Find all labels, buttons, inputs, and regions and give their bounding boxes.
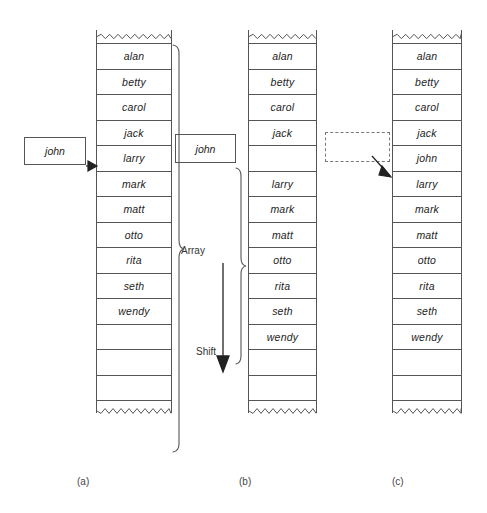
array-cell: rita: [97, 248, 171, 274]
array-cell: seth: [97, 274, 171, 300]
array-cell: wendy: [97, 299, 171, 325]
array-cell: carol: [249, 95, 316, 121]
array-cell: jack: [249, 121, 316, 147]
array-cell-label: otto: [273, 255, 291, 266]
array-cell: alan: [393, 44, 461, 70]
array-cell-label: alan: [124, 51, 145, 62]
array-cell: [97, 325, 171, 351]
array-cell-label: mark: [122, 179, 146, 190]
array-cell-label: matt: [416, 230, 437, 241]
array-cell: betty: [97, 70, 171, 96]
array-cell-label: wendy: [411, 332, 442, 343]
array-cell-label: mark: [270, 204, 294, 215]
array-cell-label: larry: [123, 153, 144, 164]
array-cell: larry: [393, 172, 461, 198]
array-cell: mark: [97, 172, 171, 198]
array-cell-label: betty: [271, 77, 295, 88]
array-cell: [249, 350, 316, 376]
array-cell: [393, 350, 461, 376]
array-insertion-figure: john alanbettycaroljacklarrymarkmattotto…: [0, 0, 487, 513]
array-cell-label: carol: [415, 102, 439, 113]
input-value-box-b: john: [175, 134, 236, 163]
array-cell: rita: [249, 274, 316, 300]
array-cell-label: otto: [125, 230, 143, 241]
caption-a: (a): [77, 476, 89, 487]
shift-arrow: [217, 263, 229, 372]
shift-brace: [236, 168, 246, 364]
array-cell: john: [393, 146, 461, 172]
array-cell-label: seth: [417, 306, 438, 317]
array-cell: jack: [393, 121, 461, 147]
array-cell: wendy: [249, 325, 316, 351]
array-cell: [393, 376, 461, 402]
array-cell-label: carol: [122, 102, 146, 113]
array-cell-label: matt: [123, 204, 144, 215]
array-cell-label: carol: [271, 102, 295, 113]
array-cell: mark: [249, 197, 316, 223]
array-cell: rita: [393, 274, 461, 300]
array-cell: seth: [249, 299, 316, 325]
array-brace-label: Array: [181, 245, 205, 256]
array-cell-label: wendy: [118, 306, 149, 317]
array-cell: otto: [249, 248, 316, 274]
array-cell-label: alan: [272, 51, 293, 62]
array-cell: wendy: [393, 325, 461, 351]
array-cell-label: mark: [415, 204, 439, 215]
array-cell-label: seth: [272, 306, 293, 317]
array-cell: larry: [97, 146, 171, 172]
array-cell-label: rita: [126, 255, 141, 266]
array-cell-label: rita: [275, 281, 290, 292]
array-cell-label: larry: [272, 179, 293, 190]
array-cell: matt: [393, 223, 461, 249]
array-cell-label: rita: [419, 281, 434, 292]
array-cell: larry: [249, 172, 316, 198]
array-cell-label: larry: [416, 179, 437, 190]
array-cell: [249, 146, 316, 172]
array-cell-label: jack: [273, 128, 292, 139]
array-cell: mark: [393, 197, 461, 223]
array-column-c: alanbettycaroljackjohnlarrymarkmattottor…: [392, 38, 462, 401]
array-cell: seth: [393, 299, 461, 325]
array-cell: otto: [97, 223, 171, 249]
array-cell-label: jack: [417, 128, 436, 139]
array-cell: jack: [97, 121, 171, 147]
array-cell: betty: [249, 70, 316, 96]
array-column-b: alanbettycaroljacklarrymarkmattottoritas…: [248, 38, 317, 401]
array-cell: matt: [249, 223, 316, 249]
array-cell-label: otto: [418, 255, 436, 266]
array-cell: alan: [249, 44, 316, 70]
array-cell: carol: [393, 95, 461, 121]
array-cell: [249, 376, 316, 402]
input-value-box-c: [325, 132, 390, 162]
array-cell-label: wendy: [267, 332, 298, 343]
shift-arrow-label: Shift: [196, 346, 216, 357]
array-cell-label: matt: [272, 230, 293, 241]
array-cell-label: jack: [124, 128, 143, 139]
array-cell-label: alan: [417, 51, 438, 62]
array-cell: matt: [97, 197, 171, 223]
array-cell-label: john: [417, 153, 438, 164]
array-cell: otto: [393, 248, 461, 274]
input-value-b: john: [196, 143, 216, 155]
array-cell: betty: [393, 70, 461, 96]
caption-c: (c): [392, 476, 404, 487]
input-value-box-a: john: [24, 137, 86, 165]
array-cell: carol: [97, 95, 171, 121]
array-cell-label: seth: [124, 281, 145, 292]
array-cell: alan: [97, 44, 171, 70]
array-cell: [97, 350, 171, 376]
array-cell-label: betty: [122, 77, 146, 88]
array-column-a: alanbettycaroljacklarrymarkmattottoritas…: [96, 38, 172, 401]
array-cell: [97, 376, 171, 402]
input-value-a: john: [45, 145, 65, 157]
caption-b: (b): [239, 476, 251, 487]
array-cell-label: betty: [415, 77, 439, 88]
